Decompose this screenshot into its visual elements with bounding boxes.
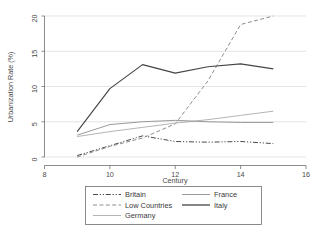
legend-entries-group: BritainLow CountriesGermanyFranceItaly (93, 190, 237, 220)
legend-label-france: France (214, 190, 237, 199)
legend-label-britain: Britain (125, 190, 146, 199)
x-axis-title: Century (162, 176, 188, 185)
y-tick-label-10: 10 (31, 85, 40, 93)
x-tick-label-14: 14 (237, 170, 245, 179)
x-tick-label-10: 10 (106, 170, 114, 179)
chart-figure: 05101520 810121416 Urbanization Rate (%)… (0, 0, 321, 235)
y-tick-label-15: 15 (31, 50, 40, 58)
y-axis-title: Urbanization Rate (%) (6, 52, 15, 123)
series-line-france (77, 120, 273, 135)
y-tick-label-5: 5 (31, 122, 40, 126)
x-tick-label-16: 16 (302, 170, 310, 179)
y-tick-label-20: 20 (31, 15, 40, 23)
legend: BritainLow CountriesGermanyFranceItaly (86, 187, 262, 225)
x-tick-label-8: 8 (43, 170, 47, 179)
legend-label-italy: Italy (214, 201, 228, 210)
legend-label-germany: Germany (125, 211, 156, 220)
y-tick-label-0: 0 (31, 158, 40, 162)
y-tick-labels-group: 05101520 (31, 15, 40, 162)
series-line-britain (77, 136, 273, 156)
urbanization-rate-line-chart: 05101520 810121416 Urbanization Rate (%)… (0, 0, 321, 235)
y-tick-marks-group (42, 16, 45, 157)
legend-label-low-countries: Low Countries (125, 201, 173, 210)
x-tick-marks-group (45, 166, 307, 170)
